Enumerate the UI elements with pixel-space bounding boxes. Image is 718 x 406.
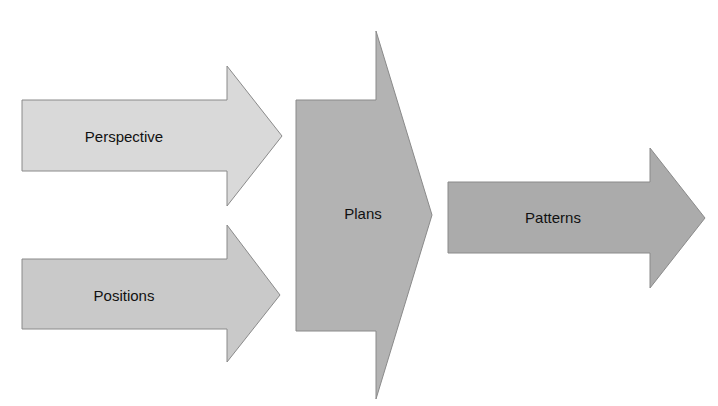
strategy-flow-diagram: Perspective Positions Plans Patterns bbox=[0, 0, 718, 406]
patterns-label: Patterns bbox=[525, 209, 581, 226]
plans-label: Plans bbox=[344, 205, 382, 222]
positions-label: Positions bbox=[94, 287, 155, 304]
perspective-arrow: Perspective bbox=[22, 66, 282, 206]
patterns-arrow: Patterns bbox=[448, 148, 705, 288]
plans-arrow: Plans bbox=[296, 31, 432, 399]
positions-arrow: Positions bbox=[22, 225, 280, 362]
perspective-label: Perspective bbox=[85, 128, 163, 145]
